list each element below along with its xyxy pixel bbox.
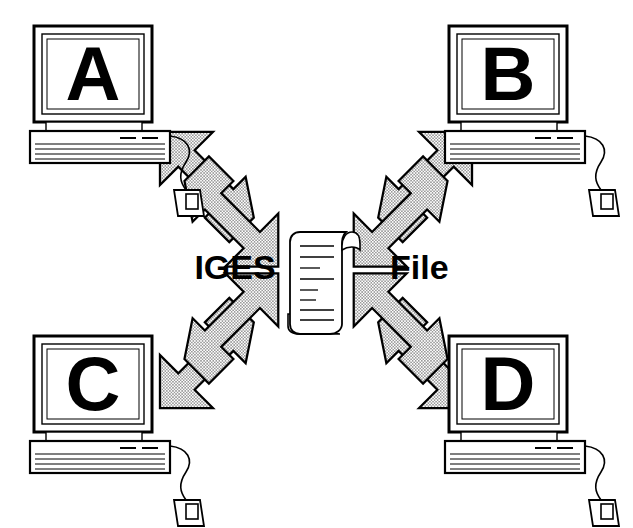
- diagram-canvas: A B C D IGES File: [0, 0, 633, 528]
- computer-d-screen-letter: D: [481, 341, 536, 426]
- computer-a-screen-letter: A: [66, 31, 121, 116]
- computer-c-screen-letter: C: [66, 341, 121, 426]
- iges-file-exchange-diagram: A B C D IGES File: [0, 0, 633, 528]
- file-label: File: [390, 248, 449, 286]
- iges-label: IGES: [194, 248, 275, 286]
- computer-b-screen-letter: B: [481, 31, 536, 116]
